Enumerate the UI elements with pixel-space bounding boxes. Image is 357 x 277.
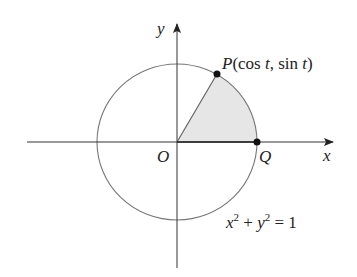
eq-y: y	[255, 213, 265, 232]
point-p-name: P	[221, 54, 232, 73]
point-p	[214, 71, 221, 78]
point-p-mid: , sin	[270, 54, 303, 73]
x-axis-label: x	[322, 146, 331, 165]
point-p-label: P(cos t, sin t)	[221, 54, 313, 73]
point-q-label: Q	[259, 147, 271, 166]
point-p-close: )	[307, 54, 313, 73]
unit-circle-diagram: y x O Q P(cos t, sin t) x2 + y2 = 1	[0, 0, 357, 277]
y-axis-label: y	[155, 19, 165, 38]
point-p-coords-open: (cos	[232, 54, 265, 73]
shaded-sector	[177, 74, 257, 142]
point-q	[254, 139, 261, 146]
origin-label: O	[157, 147, 169, 166]
eq-plus: +	[239, 213, 257, 232]
eq-equals-one: = 1	[270, 213, 297, 232]
circle-equation: x2 + y2 = 1	[225, 211, 297, 232]
